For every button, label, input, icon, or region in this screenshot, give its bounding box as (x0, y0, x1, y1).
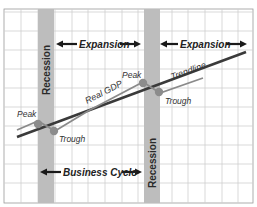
expansion-label-1: Expansion (79, 39, 130, 50)
trough-point-1 (50, 127, 58, 135)
trough-label-1: Trough (59, 134, 86, 144)
expansion-label-2: Expansion (180, 39, 231, 50)
recession-label-1: Recession (41, 45, 52, 95)
trough-label-2: Trough (165, 96, 192, 106)
recession-label-2: Recession (147, 138, 158, 188)
peak-point-1 (34, 120, 42, 128)
peak-label-2: Peak (122, 70, 142, 80)
business-cycle-label: Business Cycle (63, 167, 137, 178)
peak-label-1: Peak (17, 109, 37, 119)
peak-point-2 (139, 79, 147, 87)
business-cycle-diagram: Recession Recession Peak Trough Peak Tro… (0, 0, 257, 207)
trough-point-2 (155, 88, 163, 96)
